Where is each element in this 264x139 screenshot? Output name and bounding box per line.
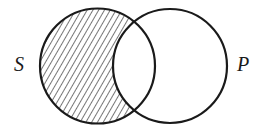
label-s: S xyxy=(14,54,24,74)
venn-diagram xyxy=(0,0,264,139)
label-p: P xyxy=(237,54,249,74)
